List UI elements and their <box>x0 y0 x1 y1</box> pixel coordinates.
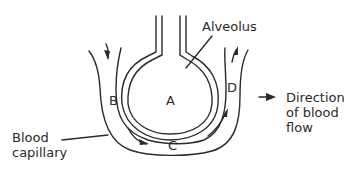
alveolus-pointer-line <box>186 36 212 68</box>
alveolus-label: Alveolus <box>202 20 257 34</box>
label-a: A <box>166 94 175 108</box>
label-d: D <box>227 81 237 95</box>
alveolus-capillary-diagram: Alveolus A B C D Blood capillary Directi… <box>0 0 354 172</box>
direction-of-blood-flow-label: Direction of blood flow <box>286 90 345 135</box>
arrowhead-b-icon <box>104 50 110 60</box>
label-b: B <box>109 94 118 108</box>
arrowhead-d-high-icon <box>233 46 238 55</box>
alveolus-inner-wall <box>128 16 212 134</box>
blood-capillary-label: Blood capillary <box>12 130 67 160</box>
capillary-pointer-line <box>62 135 108 140</box>
legend-arrowhead-icon <box>266 93 276 101</box>
label-c: C <box>168 139 177 153</box>
